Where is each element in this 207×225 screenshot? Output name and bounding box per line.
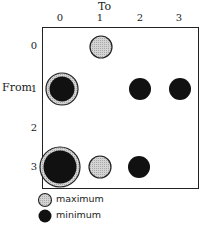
marker-from1-to3-minimum (169, 78, 191, 100)
marker-from3-to0-both (40, 147, 80, 187)
marker-from3-to1-maximum (89, 156, 111, 178)
marker-from3-to2-minimum (128, 156, 150, 178)
legend-minimum-label: minimum (56, 209, 101, 220)
legend-minimum-icon (39, 210, 52, 223)
marker-from1-to0-both (46, 73, 78, 105)
marker-from1-to2-minimum (129, 78, 151, 100)
legend-maximum-label: maximum (56, 193, 104, 204)
matrix-markers (0, 0, 207, 225)
marker-from0-to1-maximum (90, 36, 112, 58)
legend-maximum-icon (39, 194, 52, 207)
